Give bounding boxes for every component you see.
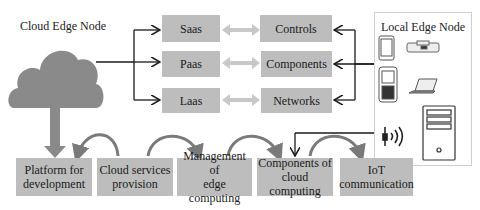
step-iot-communication: IoT communication <box>340 158 413 196</box>
cloud-icon <box>8 51 103 108</box>
step-line: communication <box>339 177 414 191</box>
resource-box-controls: Controls <box>260 15 332 42</box>
service-box-saas: Saas <box>162 15 220 42</box>
step-line: Management of <box>177 149 252 177</box>
step-line: provision <box>112 177 157 191</box>
resource-box-networks: Networks <box>261 88 332 113</box>
step-platform-for-development: Platform for development <box>16 158 92 196</box>
curved-arrow-1 <box>78 135 118 156</box>
cloud-to-platform-arrow <box>44 108 66 158</box>
tablet-icon <box>379 36 394 60</box>
step-components-of-cloud-computing: Components of cloud computing <box>257 158 333 196</box>
local-to-resources-connector <box>334 30 374 100</box>
step-line: edge computing <box>177 177 252 205</box>
service-box-paas: Paas <box>162 51 220 77</box>
cloud-node-title: Cloud Edge Node <box>20 19 106 34</box>
local-edge-node-panel: Local Edge Node <box>374 12 472 166</box>
camera-icon <box>407 41 439 52</box>
service-box-laas: Laas <box>162 88 220 113</box>
server-tower-icon <box>423 106 455 160</box>
step-line: Components of <box>258 156 332 170</box>
step-line: IoT <box>368 163 385 177</box>
curved-arrow-4 <box>310 136 360 156</box>
resource-box-components: Components <box>261 51 332 77</box>
device-icons <box>375 13 471 165</box>
step-line: development <box>23 177 85 191</box>
step-line: Platform for <box>25 163 84 177</box>
phone-icon <box>379 67 397 102</box>
wireless-sensor-icon <box>383 127 403 146</box>
step-line: cloud computing <box>257 170 333 198</box>
double-arrow-1 <box>222 24 260 36</box>
double-arrows <box>222 24 260 106</box>
step-management-of-edge-computing: Management of edge computing <box>177 158 252 196</box>
step-cloud-services-provision: Cloud services provision <box>97 158 173 196</box>
double-arrow-3 <box>222 94 260 106</box>
cloud-to-services-connector <box>96 30 160 100</box>
laptop-icon <box>409 79 437 93</box>
double-arrow-2 <box>222 57 260 69</box>
step-line: Cloud services <box>100 163 171 177</box>
